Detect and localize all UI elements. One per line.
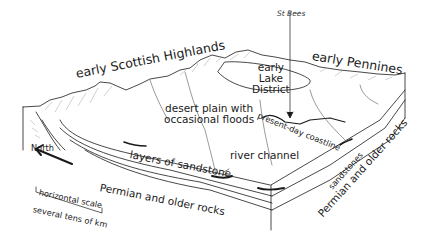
label-early-lake-district: early Lake District: [252, 62, 290, 95]
label-river-channel: river channel: [230, 150, 299, 161]
label-st-bees: St Bees: [277, 10, 305, 18]
label-north: North: [31, 144, 54, 152]
block-diagram: St Bees early Pennines early Scottish Hi…: [0, 0, 440, 244]
label-desert-plain: desert plain with occasional floods: [164, 103, 254, 125]
